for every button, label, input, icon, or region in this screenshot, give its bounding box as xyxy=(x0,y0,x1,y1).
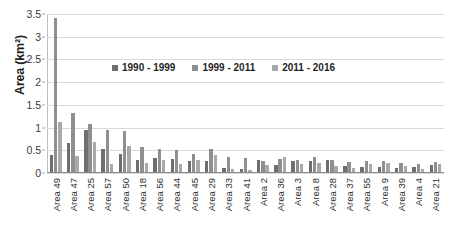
bar[interactable] xyxy=(101,149,104,172)
bar[interactable] xyxy=(369,164,372,172)
bar[interactable] xyxy=(244,158,247,172)
bar[interactable] xyxy=(158,149,161,172)
bar[interactable] xyxy=(179,164,182,172)
x-axis-tick-label: Area 28 xyxy=(326,178,337,211)
bar[interactable] xyxy=(430,165,433,172)
bar-group xyxy=(133,14,150,172)
y-axis-tick-labels: 00.511.522.533.5 xyxy=(0,14,45,173)
bar[interactable] xyxy=(278,159,281,172)
x-axis-tick-label: Area 49 xyxy=(50,178,61,211)
legend-item[interactable]: 2011 - 2016 xyxy=(272,62,335,73)
bar[interactable] xyxy=(153,158,156,172)
bar[interactable] xyxy=(274,165,277,172)
bar[interactable] xyxy=(326,160,329,172)
bar-group xyxy=(323,14,340,172)
x-axis-tick-label: Area 50 xyxy=(119,178,130,211)
y-axis-tick-label: 2.5 xyxy=(26,53,41,65)
bar[interactable] xyxy=(145,163,148,172)
bar[interactable] xyxy=(71,113,74,172)
x-axis-tick-labels: Area 49Area 47Area 25Area 57Area 50Area … xyxy=(47,176,444,224)
bar[interactable] xyxy=(110,164,113,172)
bar[interactable] xyxy=(438,164,441,172)
bar-group xyxy=(220,14,237,172)
bar[interactable] xyxy=(84,130,87,172)
bar[interactable] xyxy=(171,159,174,172)
x-axis-tick-label: Area 4 xyxy=(413,178,424,206)
x-axis-tick-label: Area 2 xyxy=(257,178,268,206)
bar[interactable] xyxy=(317,163,320,172)
bar[interactable] xyxy=(88,124,91,172)
legend-item[interactable]: 1990 - 1999 xyxy=(112,62,175,73)
bar[interactable] xyxy=(192,154,195,172)
bar-group xyxy=(427,14,444,172)
bar[interactable] xyxy=(257,160,260,172)
bar[interactable] xyxy=(365,161,368,172)
bar[interactable] xyxy=(54,18,57,172)
x-axis-tick-label: Area 25 xyxy=(85,178,96,211)
y-axis-tick-mark xyxy=(42,59,45,60)
bar[interactable] xyxy=(300,164,303,172)
x-axis-tick-cell: Area 56 xyxy=(151,176,168,224)
x-axis-tick-cell: Area 47 xyxy=(64,176,81,224)
x-axis-tick-cell: Area 28 xyxy=(323,176,340,224)
bar-group xyxy=(271,14,288,172)
bar[interactable] xyxy=(309,161,312,172)
x-axis-tick-label: Area 33 xyxy=(223,178,234,211)
bar[interactable] xyxy=(313,157,316,172)
bar-group xyxy=(392,14,409,172)
bar[interactable] xyxy=(291,161,294,172)
bar[interactable] xyxy=(386,163,389,172)
plot-area xyxy=(47,14,444,173)
bar[interactable] xyxy=(196,160,199,172)
x-axis-tick-cell: Area 2 xyxy=(254,176,271,224)
bar[interactable] xyxy=(330,160,333,172)
bar[interactable] xyxy=(67,143,70,172)
y-axis-tick-mark xyxy=(42,36,45,37)
bar[interactable] xyxy=(382,161,385,172)
bar[interactable] xyxy=(265,165,268,172)
bar[interactable] xyxy=(261,161,264,172)
chart-legend: 1990 - 19991999 - 20112011 - 2016 xyxy=(112,62,335,73)
x-axis-tick-cell: Area 41 xyxy=(237,176,254,224)
bar[interactable] xyxy=(119,154,122,172)
bar-group xyxy=(47,14,64,172)
bar[interactable] xyxy=(140,147,143,172)
bar[interactable] xyxy=(93,142,96,172)
bar[interactable] xyxy=(188,161,191,172)
bar-group xyxy=(185,14,202,172)
bar[interactable] xyxy=(399,163,402,172)
bar[interactable] xyxy=(417,164,420,172)
bar[interactable] xyxy=(175,150,178,172)
bar[interactable] xyxy=(296,160,299,172)
bar[interactable] xyxy=(123,131,126,172)
bar[interactable] xyxy=(205,161,208,172)
bar[interactable] xyxy=(214,155,217,172)
gridline xyxy=(47,173,444,174)
bar[interactable] xyxy=(127,146,130,172)
legend-swatch-icon xyxy=(272,65,278,71)
x-axis-tick-label: Area 18 xyxy=(136,178,147,211)
y-axis-tick-mark xyxy=(42,173,45,174)
bar[interactable] xyxy=(162,160,165,172)
bar[interactable] xyxy=(75,156,78,172)
bar[interactable] xyxy=(283,157,286,172)
x-axis-tick-cell: Area 4 xyxy=(410,176,427,224)
bar[interactable] xyxy=(347,162,350,172)
y-axis-tick-label: 1 xyxy=(35,122,41,134)
bar[interactable] xyxy=(434,162,437,172)
y-axis-tick-mark xyxy=(42,127,45,128)
bar[interactable] xyxy=(209,149,212,172)
bar[interactable] xyxy=(50,155,53,172)
bar[interactable] xyxy=(227,157,230,172)
legend-item[interactable]: 1999 - 2011 xyxy=(192,62,255,73)
x-axis-tick-label: Area 36 xyxy=(275,178,286,211)
x-axis-tick-cell: Area 8 xyxy=(306,176,323,224)
bar[interactable] xyxy=(106,130,109,172)
x-axis-tick-cell: Area 49 xyxy=(47,176,64,224)
x-axis-tick-label: Area 8 xyxy=(309,178,320,206)
x-axis-tick-label: Area 41 xyxy=(240,178,251,211)
x-axis-tick-cell: Area 25 xyxy=(82,176,99,224)
bar[interactable] xyxy=(136,160,139,172)
y-axis-tick-label: 0.5 xyxy=(26,144,41,156)
bar[interactable] xyxy=(58,122,61,172)
